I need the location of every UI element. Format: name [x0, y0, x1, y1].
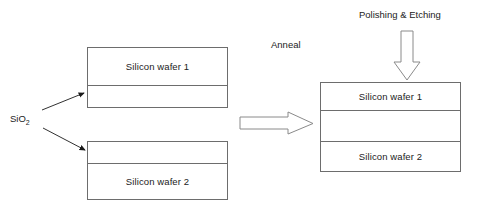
sio2-label: SiO2 — [10, 114, 30, 126]
left-top-layer-oxide — [88, 86, 227, 107]
sio2-label-subscript: 2 — [26, 119, 30, 126]
left-bottom-layer-silicon-wafer-2: Silicon wafer 2 — [88, 164, 227, 199]
right-layer-silicon-wafer-2: Silicon wafer 2 — [321, 142, 460, 171]
sio2-pointer-upper-icon — [42, 93, 84, 110]
left-top-layer-silicon-wafer-1-label: Silicon wafer 1 — [126, 62, 189, 72]
anneal-label: Anneal — [271, 40, 301, 50]
left-top-wafer-box: Silicon wafer 1 — [87, 47, 228, 108]
left-bottom-layer-silicon-wafer-2-label: Silicon wafer 2 — [126, 177, 189, 187]
left-bottom-wafer-box: Silicon wafer 2 — [87, 141, 228, 200]
polishing-etching-block-arrow-icon — [394, 31, 420, 80]
right-layer-oxide — [321, 111, 460, 142]
polishing-etching-label: Polishing & Etching — [359, 10, 441, 20]
left-bottom-layer-oxide — [88, 142, 227, 164]
sio2-pointer-lower-icon — [43, 128, 85, 150]
sio2-label-text: SiO — [10, 113, 26, 124]
left-top-layer-silicon-wafer-1: Silicon wafer 1 — [88, 48, 227, 86]
right-bonded-stack-box: Silicon wafer 1 Silicon wafer 2 — [320, 82, 461, 172]
right-layer-silicon-wafer-2-label: Silicon wafer 2 — [359, 152, 422, 162]
right-layer-silicon-wafer-1-label: Silicon wafer 1 — [359, 92, 422, 102]
diagram-canvas: Silicon wafer 1 Silicon wafer 2 Silicon … — [0, 0, 483, 213]
right-layer-silicon-wafer-1: Silicon wafer 1 — [321, 83, 460, 111]
anneal-block-arrow-icon — [240, 112, 313, 134]
